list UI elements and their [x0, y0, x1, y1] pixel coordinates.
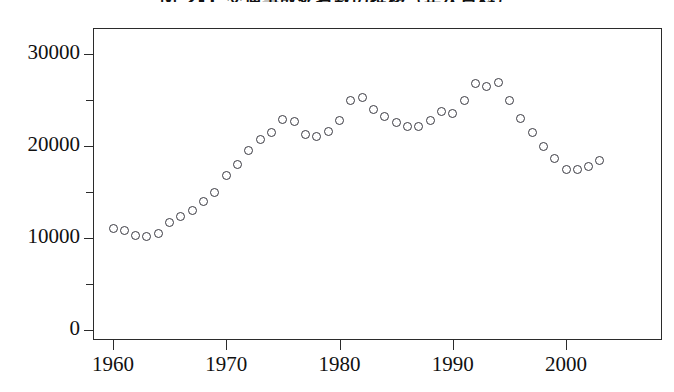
y-axis-label: 20000 — [28, 132, 81, 157]
y-axis-minor-tick — [86, 192, 93, 193]
x-axis-label: 1970 — [205, 352, 247, 377]
x-axis-label: 1990 — [432, 352, 474, 377]
x-axis-label: 1980 — [319, 352, 361, 377]
x-axis-label: 1960 — [92, 352, 134, 377]
y-axis-label: 0 — [70, 316, 81, 341]
y-axis-minor-tick — [86, 100, 93, 101]
x-axis-tick — [566, 340, 567, 350]
y-axis-tick — [84, 146, 93, 147]
y-axis-minor-tick — [86, 284, 93, 285]
y-axis-label: 30000 — [28, 40, 81, 65]
x-axis-tick — [113, 340, 114, 350]
y-axis-tick — [84, 54, 93, 55]
y-axis-tick — [84, 330, 93, 331]
chart-figure: 図 2-1 交通事故死者数の推移（年次資料） 01000020000300001… — [0, 0, 674, 392]
chart-title: 図 2-1 交通事故死者数の推移（年次資料） — [0, 0, 674, 2]
x-axis-label: 2000 — [545, 352, 587, 377]
x-axis-tick — [340, 340, 341, 350]
x-axis-tick — [453, 340, 454, 350]
y-axis-label: 10000 — [28, 224, 81, 249]
y-axis-tick — [84, 238, 93, 239]
plot-area — [93, 28, 662, 340]
x-axis-tick — [226, 340, 227, 350]
